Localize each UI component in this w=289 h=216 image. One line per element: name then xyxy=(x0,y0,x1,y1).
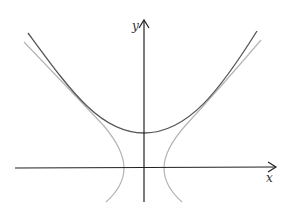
hyperbola-left-branch xyxy=(24,42,124,202)
diagram-canvas: x y xyxy=(0,0,289,216)
y-axis xyxy=(139,20,149,202)
hyperbola-right-branch xyxy=(164,40,261,202)
x-axis-label: x xyxy=(266,171,273,185)
hyperbola-curve xyxy=(24,40,261,202)
y-axis-label: y xyxy=(131,19,139,33)
x-axis xyxy=(15,162,276,172)
